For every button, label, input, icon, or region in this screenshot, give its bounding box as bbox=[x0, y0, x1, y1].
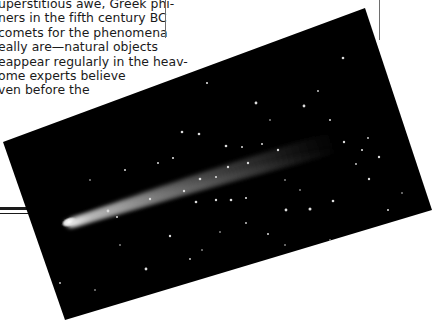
comet-photo bbox=[0, 0, 435, 320]
photo-sky bbox=[3, 8, 432, 320]
